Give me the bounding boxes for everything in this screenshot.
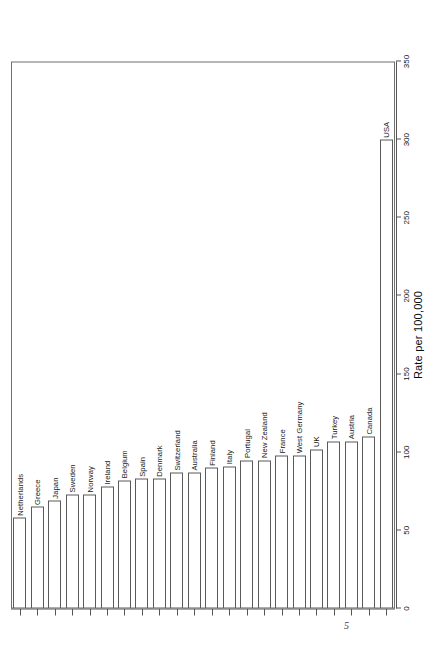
value-tick (396, 138, 401, 139)
bar-series: NetherlandsGreeceJapanSwedenNorwayIrelan… (11, 61, 395, 608)
bar-label: New Zealand (260, 412, 269, 460)
category-tick (177, 608, 178, 615)
bar-item: Finland (205, 61, 218, 608)
bar (153, 478, 166, 608)
bar-item: UK (310, 61, 323, 608)
category-tick (247, 608, 248, 615)
category-tick (334, 608, 335, 615)
category-axis-ticks (11, 608, 395, 615)
bar (327, 441, 340, 608)
bar (258, 460, 271, 608)
category-tick (369, 608, 370, 615)
bar-item: Denmark (153, 61, 166, 608)
bar-label: Japan (50, 477, 59, 500)
bar-label: Switzerland (172, 430, 181, 472)
value-tick (396, 373, 401, 374)
category-tick (90, 608, 91, 615)
bar-item: Belgium (118, 61, 131, 608)
category-tick (282, 608, 283, 615)
bar-label: Netherlands (15, 473, 24, 517)
bar-item: Austria (345, 61, 358, 608)
value-tick-label: 0 (402, 606, 411, 610)
bar-label: Australia (190, 440, 199, 472)
bar (101, 486, 114, 608)
category-tick (159, 608, 160, 615)
bar-item: Ireland (101, 61, 114, 608)
bar (293, 455, 306, 608)
value-tick (396, 60, 401, 61)
bar (275, 455, 288, 608)
value-tick (396, 529, 401, 530)
bar-item: Greece (31, 61, 44, 608)
category-tick (142, 608, 143, 615)
bar-label: Austria (347, 414, 356, 440)
value-tick (396, 607, 401, 608)
category-tick (299, 608, 300, 615)
bar-item: Netherlands (13, 61, 26, 608)
bar-item: Japan (48, 61, 61, 608)
bar-label: Denmark (155, 445, 164, 479)
value-tick-label: 300 (402, 132, 411, 145)
bar-label: France (277, 429, 286, 455)
bar-item: Portugal (240, 61, 253, 608)
category-tick (107, 608, 108, 615)
bar-label: Spain (137, 456, 146, 478)
bar (240, 460, 253, 608)
value-tick-label: 150 (402, 367, 411, 380)
bar-item: West Germany (293, 61, 306, 608)
bar (310, 449, 323, 608)
bar-item: Spain (135, 61, 148, 608)
category-tick (37, 608, 38, 615)
value-tick (396, 451, 401, 452)
bar (135, 478, 148, 608)
category-tick (264, 608, 265, 615)
bar-label: UK (312, 436, 321, 449)
bar-item: New Zealand (258, 61, 271, 608)
axis-title: Rate per 100,000 (412, 61, 424, 608)
bar (118, 480, 131, 608)
bar-label: USA (382, 121, 391, 139)
bar (83, 494, 96, 608)
category-tick (212, 608, 213, 615)
bar-label: Portugal (242, 428, 251, 459)
category-tick (229, 608, 230, 615)
bar-item: Sweden (66, 61, 79, 608)
bar-label: West Germany (295, 401, 304, 455)
bar (380, 139, 393, 608)
bar (223, 466, 236, 608)
category-tick (124, 608, 125, 615)
bar-item: Switzerland (170, 61, 183, 608)
bar (170, 472, 183, 608)
value-axis-baseline (396, 61, 397, 608)
bar-item: Italy (223, 61, 236, 608)
bar (188, 472, 201, 608)
bar-label: Ireland (103, 460, 112, 486)
category-tick (20, 608, 21, 615)
category-tick (55, 608, 56, 615)
bar (31, 506, 44, 608)
bar-item: France (275, 61, 288, 608)
bar-item: Norway (83, 61, 96, 608)
bar (13, 517, 26, 608)
bar-label: Norway (85, 466, 94, 494)
value-tick-label: 50 (402, 525, 411, 534)
category-tick (194, 608, 195, 615)
value-tick-label: 200 (402, 289, 411, 302)
bar-item: Turkey (327, 61, 340, 608)
bar-item: USA (380, 61, 393, 608)
category-tick (351, 608, 352, 615)
category-tick (316, 608, 317, 615)
bar-label: Sweden (68, 464, 77, 494)
bar (205, 467, 218, 608)
bar-label: Turkey (329, 415, 338, 441)
bar-item: Australia (188, 61, 201, 608)
bar-label: Canada (364, 407, 373, 436)
bar (345, 441, 358, 608)
bar-item: Canada (362, 61, 375, 608)
value-tick-label: 100 (402, 445, 411, 458)
bar-label: Finland (207, 440, 216, 468)
page-folio: 5 (344, 620, 349, 631)
value-tick (396, 216, 401, 217)
